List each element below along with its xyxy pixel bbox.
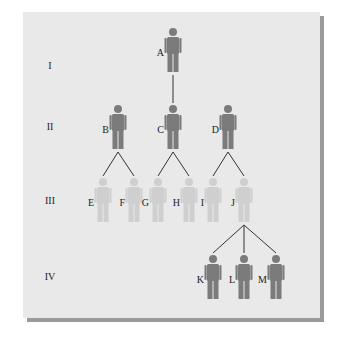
individual-label-H: H (173, 197, 180, 208)
person-figure-I (205, 178, 222, 222)
person-figure-F (126, 178, 143, 222)
individual-label-C: C (157, 124, 164, 135)
descent-line (103, 152, 118, 176)
generation-label: I (48, 60, 51, 71)
person-figure-M (268, 255, 285, 299)
individual-label-K: K (197, 274, 204, 285)
individual-label-G: G (142, 197, 149, 208)
individual-label-M: M (258, 274, 267, 285)
person-figure-G (150, 178, 167, 222)
individual-label-B: B (102, 124, 109, 135)
person-figure-B (110, 105, 127, 149)
person-figure-C (165, 105, 182, 149)
individual-label-A: A (157, 47, 164, 58)
individual-label-D: D (212, 124, 219, 135)
individual-label-I: I (201, 197, 204, 208)
individual-label-L: L (229, 274, 235, 285)
person-figure-L (236, 255, 253, 299)
descent-line (158, 152, 173, 176)
generation-label: II (47, 121, 54, 132)
person-figure-H (181, 178, 198, 222)
pedigree-diagram (0, 0, 342, 338)
individual-label-E: E (88, 197, 94, 208)
individual-label-F: F (119, 197, 125, 208)
descent-line (213, 225, 244, 253)
descent-line (213, 152, 228, 176)
generation-label: IV (45, 271, 56, 282)
person-figure-A (165, 28, 182, 72)
descent-line (228, 152, 244, 176)
descent-line (118, 152, 134, 176)
individual-label-J: J (231, 197, 235, 208)
generation-label: III (45, 195, 55, 206)
person-figure-J (236, 178, 253, 222)
descent-line (173, 152, 189, 176)
person-figure-K (205, 255, 222, 299)
person-figure-D (220, 105, 237, 149)
person-figure-E (95, 178, 112, 222)
descent-line (244, 225, 276, 253)
